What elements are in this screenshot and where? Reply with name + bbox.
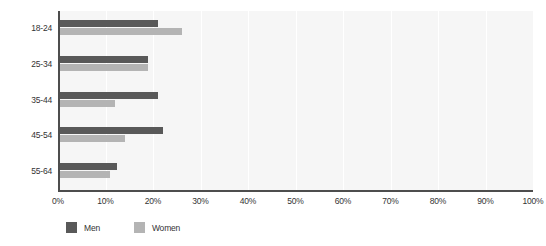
x-tick-label-70%: 70%	[371, 196, 411, 206]
bar-men-35-44	[58, 92, 158, 99]
bar-group	[58, 154, 533, 190]
x-tick-label-20%: 20%	[133, 196, 173, 206]
legend-swatch-men	[66, 222, 77, 233]
bar-group	[58, 11, 533, 47]
bar-chart: 18-2425-3435-4445-5455-64 0%10%20%30%40%…	[0, 0, 546, 246]
x-tick-label-90%: 90%	[466, 196, 506, 206]
plot-area	[58, 11, 533, 190]
legend-label-women: Women	[152, 223, 180, 233]
bar-women-55-64	[58, 171, 110, 178]
bar-women-25-34	[58, 64, 148, 71]
bar-women-18-24	[58, 28, 182, 35]
y-tick-label-25-34: 25-34	[0, 59, 52, 69]
y-tick-label-55-64: 55-64	[0, 166, 52, 176]
y-tick-label-35-44: 35-44	[0, 95, 52, 105]
legend-item-men[interactable]: Men	[66, 222, 100, 233]
x-axis-line	[58, 190, 533, 192]
gridline-vertical	[533, 11, 534, 190]
x-tick-label-50%: 50%	[276, 196, 316, 206]
bar-women-35-44	[58, 100, 115, 107]
x-tick-label-40%: 40%	[228, 196, 268, 206]
y-axis-line	[58, 11, 60, 191]
bar-group	[58, 47, 533, 83]
x-tick-label-100%: 100%	[513, 196, 546, 206]
x-tick-label-60%: 60%	[323, 196, 363, 206]
legend-item-women[interactable]: Women	[134, 222, 180, 233]
bar-women-45-54	[58, 135, 125, 142]
bar-men-18-24	[58, 20, 158, 27]
chart-legend: MenWomen	[66, 222, 214, 233]
x-tick-label-0%: 0%	[38, 196, 78, 206]
x-tick-label-10%: 10%	[86, 196, 126, 206]
bar-men-45-54	[58, 127, 163, 134]
bar-group	[58, 118, 533, 154]
bar-group	[58, 83, 533, 119]
y-tick-label-45-54: 45-54	[0, 130, 52, 140]
legend-swatch-women	[134, 222, 145, 233]
y-tick-label-18-24: 18-24	[0, 23, 52, 33]
legend-label-men: Men	[84, 223, 100, 233]
bar-men-55-64	[58, 163, 117, 170]
x-tick-label-80%: 80%	[418, 196, 458, 206]
x-tick-label-30%: 30%	[181, 196, 221, 206]
bar-men-25-34	[58, 56, 148, 63]
